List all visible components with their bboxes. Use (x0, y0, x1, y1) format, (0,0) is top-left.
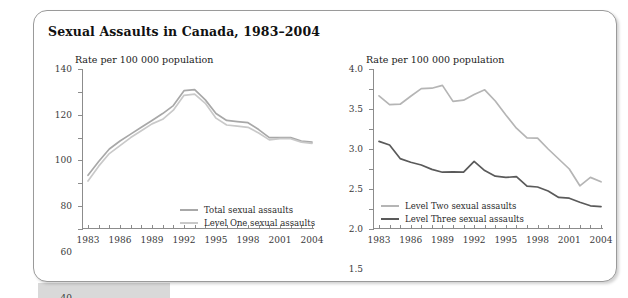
x-tick-label: 2001 (558, 235, 581, 245)
y-tick-label: 2.0 (349, 224, 363, 234)
chart-left-y-axis-title: Rate per 100 000 population (75, 54, 213, 65)
page-corner-block (38, 283, 170, 298)
y-tick: 0 (78, 229, 83, 230)
x-tick-label: 1989 (431, 235, 454, 245)
chart-left-legend: Total sexual assaultsLevel One sexual as… (180, 203, 315, 229)
x-tick-label: 1986 (109, 235, 132, 245)
legend-swatch-icon (180, 209, 198, 211)
legend-label: Level One sexual assaults (204, 218, 315, 228)
figure-panel: Sexual Assaults in Canada, 1983–2004 Rat… (33, 10, 617, 282)
x-tick-label: 1995 (205, 235, 228, 245)
series-line (379, 141, 601, 206)
series-line (379, 85, 601, 185)
x-tick-label: 2001 (269, 235, 292, 245)
legend-item: Level One sexual assaults (180, 216, 315, 229)
y-tick: 0.0 (369, 229, 374, 230)
y-tick-label: 40 (61, 293, 72, 298)
x-tick-label: 2004 (590, 235, 613, 245)
legend-swatch-icon (381, 205, 399, 207)
legend-label: Level Two sexual assaults (405, 201, 516, 211)
y-tick-label: 120 (55, 110, 72, 120)
legend-label: Level Three sexual assaults (405, 214, 524, 224)
y-tick-label: 80 (61, 201, 72, 211)
x-tick-label: 1983 (77, 235, 100, 245)
legend-item: Level Three sexual assaults (381, 212, 524, 225)
y-tick-label: 140 (55, 64, 72, 74)
x-tick-label: 1992 (463, 235, 486, 245)
x-tick-label: 1986 (399, 235, 422, 245)
x-tick-label: 1989 (141, 235, 164, 245)
chart-right-level-two-and-three: Rate per 100 000 population 0.00.51.01.5… (326, 51, 616, 273)
series-line (88, 90, 312, 176)
x-tick-label: 2004 (301, 235, 324, 245)
y-tick-label: 4.0 (349, 64, 363, 74)
legend-item: Total sexual assaults (180, 203, 315, 216)
y-tick-label: 60 (61, 247, 72, 257)
y-tick-label: 100 (55, 155, 72, 165)
y-tick-label: 1.5 (349, 264, 363, 274)
chart-left-total-and-level-one: Rate per 100 000 population 020406080100… (40, 51, 330, 273)
x-tick-label: 1992 (173, 235, 196, 245)
y-tick-label: 3.5 (349, 104, 363, 114)
legend-swatch-icon (180, 222, 198, 224)
x-tick-label: 1995 (494, 235, 517, 245)
legend-label: Total sexual assaults (204, 205, 293, 215)
x-tick-label: 1998 (237, 235, 260, 245)
screenshot-page: Sexual Assaults in Canada, 1983–2004 Rat… (0, 0, 628, 298)
y-tick-label: 2.5 (349, 184, 363, 194)
chart-right-y-axis-title: Rate per 100 000 population (366, 54, 504, 65)
x-tick-label: 1998 (526, 235, 549, 245)
legend-item: Level Two sexual assaults (381, 199, 524, 212)
chart-right-legend: Level Two sexual assaultsLevel Three sex… (381, 199, 524, 225)
y-tick-label: 3.0 (349, 144, 363, 154)
page-title: Sexual Assaults in Canada, 1983–2004 (48, 24, 320, 39)
legend-swatch-icon (381, 218, 399, 220)
x-tick-label: 1983 (368, 235, 391, 245)
